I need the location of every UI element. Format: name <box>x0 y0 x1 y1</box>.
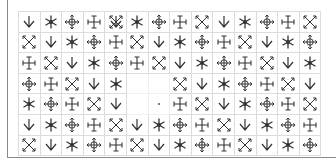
grid-cell <box>62 53 84 74</box>
grid-cell <box>19 94 41 115</box>
down-arrow-icon <box>21 14 37 30</box>
asterisk-icon <box>172 137 188 153</box>
diagonal-expand-icon <box>64 76 80 92</box>
move-arrows-icon <box>259 96 275 112</box>
grid-cell <box>105 115 127 136</box>
ibeam-cross-icon <box>108 34 124 50</box>
asterisk-icon <box>108 76 124 92</box>
grid-cell <box>300 94 322 115</box>
grid-cell <box>105 136 127 157</box>
grid-cell <box>127 136 149 157</box>
grid-cell <box>278 12 300 33</box>
grid-cell <box>62 33 84 54</box>
grid-cell <box>257 136 279 157</box>
asterisk-icon <box>237 96 253 112</box>
grid-cell <box>84 74 106 95</box>
grid-cell <box>278 53 300 74</box>
grid-cell <box>213 53 235 74</box>
grid-cell <box>300 74 322 95</box>
grid-cell <box>84 115 106 136</box>
asterisk-icon <box>64 34 80 50</box>
diagonal-expand-icon <box>86 96 102 112</box>
grid-cell <box>278 33 300 54</box>
grid-cell <box>62 94 84 115</box>
grid-cell <box>192 74 214 95</box>
grid-cell <box>170 115 192 136</box>
grid-cell <box>149 12 171 33</box>
grid-cell <box>300 12 322 33</box>
grid-cell <box>127 94 149 115</box>
grid-cell <box>84 136 106 157</box>
grid-cell <box>170 33 192 54</box>
diagonal-expand-icon <box>194 14 210 30</box>
asterisk-icon <box>280 137 296 153</box>
move-arrows-icon <box>151 14 167 30</box>
ibeam-cross-icon <box>237 55 253 71</box>
ibeam-cross-icon <box>172 96 188 112</box>
grid-cell <box>149 33 171 54</box>
diagonal-expand-icon <box>21 137 37 153</box>
asterisk-icon <box>129 14 145 30</box>
down-arrow-icon <box>194 76 210 92</box>
grid-cell <box>19 115 41 136</box>
grid-cell <box>300 33 322 54</box>
grid-cell <box>170 136 192 157</box>
grid-cell <box>235 115 257 136</box>
grid-cell <box>235 33 257 54</box>
ibeam-cross-icon <box>280 14 296 30</box>
down-arrow-icon <box>259 34 275 50</box>
grid-cell <box>62 12 84 33</box>
asterisk-icon <box>302 55 318 71</box>
grid-cell <box>84 53 106 74</box>
ibeam-cross-icon <box>194 117 210 133</box>
grid-cell <box>41 33 63 54</box>
diagonal-expand-icon <box>21 34 37 50</box>
grid-cell <box>149 136 171 157</box>
move-arrows-icon <box>86 137 102 153</box>
asterisk-icon <box>172 34 188 50</box>
grid-cell <box>105 74 127 95</box>
diagonal-expand-icon <box>194 96 210 112</box>
grid-cell <box>257 74 279 95</box>
grid-cell <box>257 33 279 54</box>
grid-cell <box>41 94 63 115</box>
grid-cell <box>192 53 214 74</box>
down-arrow-icon <box>280 55 296 71</box>
down-arrow-icon <box>216 96 232 112</box>
grid-cell <box>84 12 106 33</box>
move-arrows-icon <box>64 117 80 133</box>
grid-cell <box>213 136 235 157</box>
grid-cell <box>149 53 171 74</box>
ibeam-cross-icon <box>86 117 102 133</box>
asterisk-icon <box>86 55 102 71</box>
frame-left-border <box>7 0 8 158</box>
grid-cell <box>235 74 257 95</box>
grid-cell <box>257 12 279 33</box>
down-arrow-icon <box>259 137 275 153</box>
grid-cell <box>105 33 127 54</box>
grid-cell <box>41 115 63 136</box>
ibeam-cross-icon <box>129 55 145 71</box>
move-arrows-icon <box>64 14 80 30</box>
frame-bottom-border <box>7 157 336 158</box>
grid-cell <box>278 74 300 95</box>
down-arrow-icon <box>129 117 145 133</box>
ibeam-cross-icon <box>302 117 318 133</box>
down-arrow-icon <box>43 137 59 153</box>
grid-cell <box>127 33 149 54</box>
grid-cell <box>257 115 279 136</box>
diagonal-expand-icon <box>259 55 275 71</box>
grid-cell <box>213 12 235 33</box>
diagonal-expand-icon <box>108 117 124 133</box>
grid-cell <box>84 94 106 115</box>
grid-cell <box>192 94 214 115</box>
grid-cell <box>213 74 235 95</box>
ibeam-cross-icon <box>108 137 124 153</box>
ibeam-cross-icon <box>43 76 59 92</box>
diagonal-expand-icon <box>280 76 296 92</box>
down-arrow-icon <box>108 96 124 112</box>
grid-cell <box>41 53 63 74</box>
move-arrows-icon <box>302 137 318 153</box>
grid-cell <box>105 53 127 74</box>
move-arrows-icon <box>86 34 102 50</box>
